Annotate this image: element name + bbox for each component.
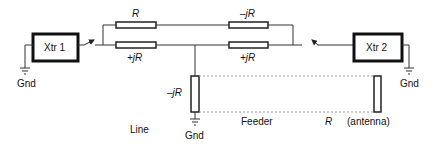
xtr1-ground-label: Gnd (17, 79, 36, 89)
xtr2-label: Xtr 2 (366, 43, 387, 53)
shunt-ground-label: Gnd (185, 131, 204, 141)
resistor-top-right (229, 22, 268, 28)
resistor-top-left (116, 22, 156, 28)
switch-arm-2 (312, 40, 318, 45)
resistor-bottom-left-label: +jR (127, 53, 142, 63)
switch-arm-1 (84, 40, 94, 45)
resistor-bottom-right-label: +jR (240, 53, 255, 63)
resistor-top-left-label: R (132, 9, 139, 19)
xtr1-label: Xtr 1 (44, 43, 65, 53)
resistor-shunt-label: –jR (167, 88, 182, 98)
resistor-antenna-label: R (325, 117, 332, 127)
resistor-shunt (191, 76, 199, 112)
resistor-bottom-left (116, 42, 156, 48)
xtr2-ground-label: Gnd (400, 79, 419, 89)
resistor-antenna (374, 76, 381, 112)
ground-icon (190, 119, 200, 125)
antenna-label: (antenna) (347, 117, 390, 127)
resistor-bottom-right (229, 42, 268, 48)
ground-icon (404, 68, 414, 74)
ground-icon (20, 68, 30, 74)
line-label: Line (130, 125, 149, 135)
circuit-diagram (0, 0, 436, 151)
feeder-label: Feeder (241, 117, 273, 127)
resistor-top-right-label: –jR (240, 9, 255, 19)
